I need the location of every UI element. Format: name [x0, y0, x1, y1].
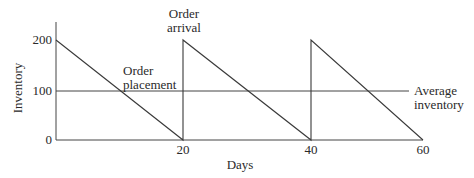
- x-tick-20: 20: [168, 143, 198, 157]
- y-tick-200: 200: [22, 33, 52, 47]
- annotation-average-line1: Average: [414, 84, 464, 98]
- annotation-average-line2: inventory: [414, 98, 464, 112]
- annotation-order-arrival: Order arrival: [162, 7, 206, 35]
- y-tick-0: 0: [22, 133, 52, 147]
- annotation-average-inventory: Average inventory: [414, 84, 464, 112]
- x-tick-60: 60: [408, 143, 438, 157]
- chart-plot-area: [0, 0, 474, 178]
- inventory-chart: 200 100 0 Inventory 20 40 60 Days Order …: [0, 0, 474, 178]
- annotation-order-placement-line2: placement: [123, 78, 176, 92]
- y-axis-label: Inventory: [11, 48, 25, 128]
- y-tick-100: 100: [22, 84, 52, 98]
- annotation-order-placement: Order placement: [123, 64, 176, 92]
- inventory-sawtooth-line: [56, 40, 423, 140]
- x-axis-label: Days: [220, 158, 260, 172]
- x-tick-40: 40: [296, 143, 326, 157]
- annotation-order-placement-line1: Order: [123, 64, 176, 78]
- annotation-order-arrival-line1: Order: [162, 7, 206, 21]
- annotation-order-arrival-line2: arrival: [162, 21, 206, 35]
